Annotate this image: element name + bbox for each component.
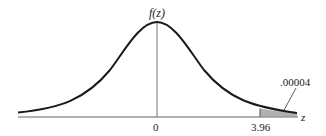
tail-area-label: .00004 (280, 76, 311, 88)
y-axis-label: f(z) (149, 6, 165, 20)
tick-zero: 0 (153, 121, 159, 133)
annotation-leader (283, 88, 296, 112)
density-chart: f(z) z 0 3.96 .00004 (0, 0, 326, 136)
tick-cutoff: 3.96 (251, 121, 271, 133)
x-axis-label: z (300, 111, 306, 123)
